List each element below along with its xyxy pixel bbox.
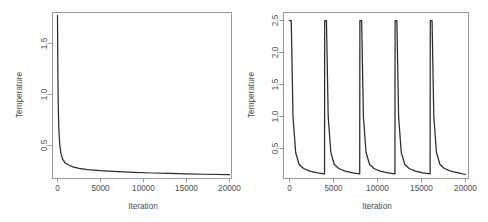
right-plot-svg: 0.5 1.0 1.5 2.0 2.5 Temperature 0 5000 1…	[244, 0, 488, 222]
left-y-ticklabel-3: 0.5	[40, 139, 49, 151]
left-x-ticklabel-4: 15000	[175, 184, 198, 193]
right-x-axis-title: Iteration	[362, 202, 392, 211]
right-y-ticklabel-3: 1.5	[271, 78, 280, 90]
right-y-axis-title: Temperature	[247, 72, 256, 118]
right-y-ticklabel-2: 1.0	[271, 110, 280, 122]
right-y-ticklabel-5: 2.5	[271, 14, 280, 26]
left-x-axis-title: Iteration	[128, 202, 158, 211]
left-plot-background	[0, 0, 244, 222]
right-y-ticklabel-1: 0.5	[271, 142, 280, 154]
right-x-ticklabel-1: 0	[287, 184, 292, 193]
left-x-ticklabel-2: 5000	[91, 184, 110, 193]
right-y-ticklabel-4: 2.0	[271, 46, 280, 58]
figure-two-panel-cooling-schedules: 1.5 1.0 0.5 Temperature 0 5000 10000 150…	[0, 0, 488, 222]
right-x-ticklabel-5: 20000	[454, 184, 477, 193]
left-x-ticklabel-3: 10000	[132, 184, 155, 193]
right-x-ticklabel-2: 5000	[324, 184, 343, 193]
panel-right-cyclic-reheating: 0.5 1.0 1.5 2.0 2.5 Temperature 0 5000 1…	[244, 0, 488, 222]
left-y-axis-title: Temperature	[15, 72, 24, 118]
left-plot-svg: 1.5 1.0 0.5 Temperature 0 5000 10000 150…	[0, 0, 244, 222]
left-y-ticklabel-2: 1.0	[40, 88, 49, 100]
left-x-ticklabel-5: 20000	[218, 184, 241, 193]
panel-left-monotone-cooling: 1.5 1.0 0.5 Temperature 0 5000 10000 150…	[0, 0, 244, 222]
right-x-ticklabel-4: 15000	[410, 184, 433, 193]
right-x-ticklabel-3: 10000	[366, 184, 389, 193]
left-y-ticklabel-1: 1.5	[40, 37, 49, 49]
left-x-ticklabel-1: 0	[55, 184, 60, 193]
